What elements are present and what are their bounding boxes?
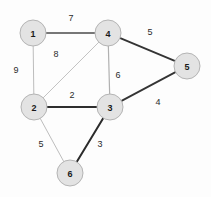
graph-edge-4-5	[119, 38, 176, 62]
graph-edge-3-5	[121, 72, 177, 102]
node-label-2: 2	[31, 103, 36, 113]
node-label-6: 6	[67, 169, 72, 179]
edge-weight-label-4-3: 6	[115, 70, 120, 80]
graph-node-3[interactable]: 3	[97, 94, 123, 120]
node-label-4: 4	[105, 29, 110, 39]
nodes-layer: 123456	[20, 20, 200, 186]
graph-edge-1-2	[33, 45, 34, 95]
edge-weight-label-4-5: 5	[147, 27, 152, 37]
edge-weight-label-2-6: 5	[38, 139, 43, 149]
graph-node-6[interactable]: 6	[57, 160, 83, 186]
graph-diagram: 123456 798652453	[0, 0, 211, 197]
graph-node-2[interactable]: 2	[21, 94, 47, 120]
node-label-1: 1	[30, 29, 35, 39]
node-label-3: 3	[107, 103, 112, 113]
graph-node-1[interactable]: 1	[20, 20, 46, 46]
edge-weight-label-1-2: 9	[13, 65, 18, 75]
edge-weight-label-1-4: 7	[68, 13, 73, 23]
edge-weight-label-2-3: 2	[69, 90, 74, 100]
edge-weight-label-3-5: 4	[155, 97, 160, 107]
graph-edge-4-3	[108, 45, 109, 95]
graph-node-4[interactable]: 4	[95, 20, 121, 46]
graph-node-5[interactable]: 5	[174, 53, 200, 79]
graph-svg-canvas: 123456 798652453	[0, 0, 211, 197]
edge-weight-label-3-6: 3	[97, 139, 102, 149]
node-label-5: 5	[184, 62, 189, 72]
edge-weight-label-2-4: 8	[53, 49, 58, 59]
